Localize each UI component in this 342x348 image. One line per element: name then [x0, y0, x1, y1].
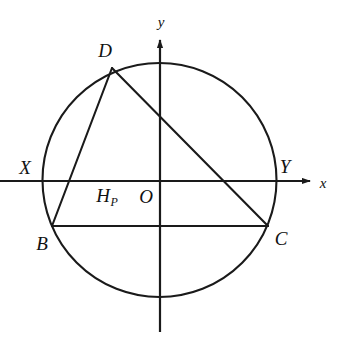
point-label-y: Y: [280, 157, 291, 176]
x-axis-label: x: [320, 176, 327, 191]
point-label-c: C: [275, 229, 288, 248]
foot-point-subscript: P: [110, 195, 117, 209]
point-label-x: X: [19, 158, 31, 177]
point-label-b: B: [36, 234, 48, 253]
segment-d-c: [112, 68, 268, 226]
origin-label: O: [139, 187, 153, 206]
foot-point-label-hp: HP: [96, 186, 118, 208]
point-label-d: D: [98, 41, 112, 60]
geometry-figure: D B C X Y O HP x y: [0, 0, 342, 348]
y-axis-label: y: [158, 15, 165, 30]
foot-point-base: H: [96, 185, 110, 206]
